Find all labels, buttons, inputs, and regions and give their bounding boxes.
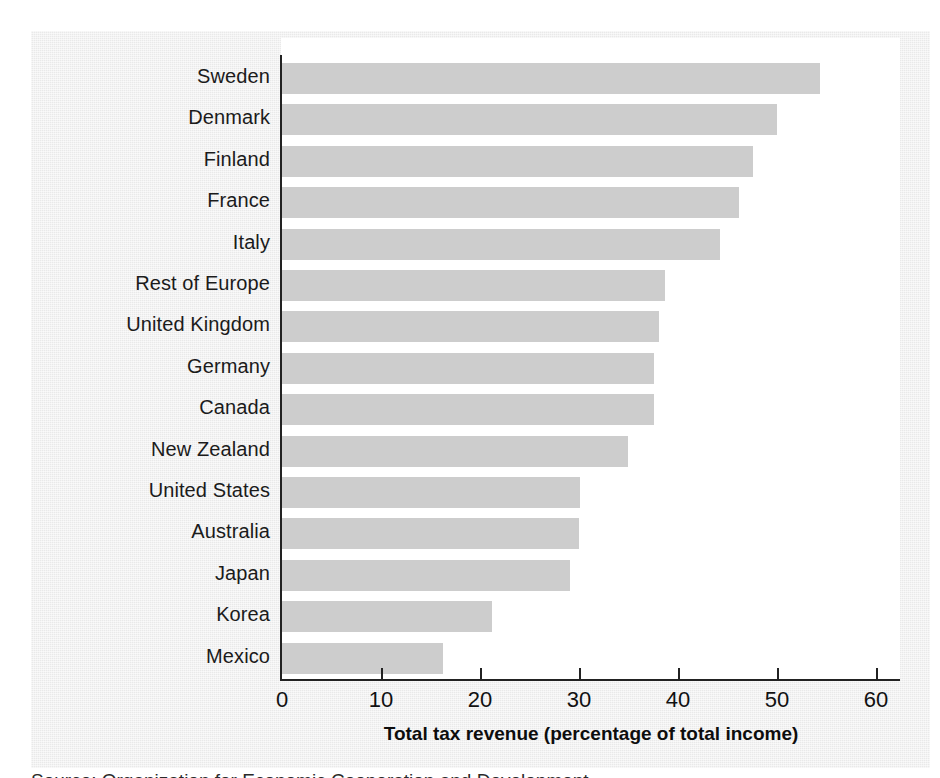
category-label: Japan — [215, 562, 270, 585]
bar-row: Rest of Europe — [0, 265, 940, 306]
tick-mark — [579, 668, 581, 680]
bar — [282, 436, 628, 467]
category-label: Rest of Europe — [135, 272, 270, 295]
x-tick-label: 30 — [567, 687, 591, 713]
category-label: United States — [149, 479, 270, 502]
bar-row: United Kingdom — [0, 306, 940, 347]
bar — [282, 187, 739, 218]
bar-row: United States — [0, 472, 940, 513]
bar — [282, 229, 720, 260]
category-label: Italy — [233, 231, 270, 254]
bar — [282, 353, 654, 384]
bar-row: New Zealand — [0, 431, 940, 472]
bar — [282, 560, 570, 591]
x-tick-label: 10 — [369, 687, 393, 713]
bar-row: Denmark — [0, 99, 940, 140]
category-label: Mexico — [206, 645, 270, 668]
x-axis-title: Total tax revenue (percentage of total i… — [281, 723, 901, 745]
tick-mark — [678, 668, 680, 680]
category-label: Finland — [204, 148, 270, 171]
category-label: Australia — [191, 520, 270, 543]
bar-row: Germany — [0, 348, 940, 389]
source-caption: Source: Organization for Economic Cooper… — [31, 770, 589, 778]
tick-mark — [876, 668, 878, 680]
category-label: Korea — [216, 603, 270, 626]
x-tick-label: 50 — [765, 687, 789, 713]
bar-row: Japan — [0, 555, 940, 596]
bar — [282, 104, 777, 135]
bar-row: Korea — [0, 596, 940, 637]
x-tick-label: 20 — [468, 687, 492, 713]
bar — [282, 311, 659, 342]
bar-row: Mexico — [0, 638, 940, 679]
bar — [282, 643, 443, 674]
bar-row: Canada — [0, 389, 940, 430]
category-label: New Zealand — [151, 438, 270, 461]
x-tick-label: 0 — [276, 687, 288, 713]
category-label: Sweden — [197, 65, 270, 88]
category-label: France — [207, 189, 270, 212]
bar-row: Finland — [0, 141, 940, 182]
tick-mark — [777, 668, 779, 680]
bar — [282, 601, 492, 632]
bar — [282, 518, 579, 549]
x-tick-label: 60 — [864, 687, 888, 713]
bar — [282, 63, 820, 94]
bar — [282, 146, 753, 177]
tick-mark — [480, 668, 482, 680]
bar-row: Australia — [0, 513, 940, 554]
bar — [282, 394, 654, 425]
bar-row: France — [0, 182, 940, 223]
bar-row: Italy — [0, 224, 940, 265]
x-axis-line — [280, 679, 900, 681]
category-label: United Kingdom — [126, 313, 270, 336]
bar — [282, 477, 580, 508]
category-label: Canada — [199, 396, 270, 419]
bar — [282, 270, 665, 301]
category-label: Germany — [187, 355, 270, 378]
tick-mark — [381, 668, 383, 680]
bar-row: Sweden — [0, 58, 940, 99]
x-tick-label: 40 — [666, 687, 690, 713]
category-label: Denmark — [188, 106, 270, 129]
